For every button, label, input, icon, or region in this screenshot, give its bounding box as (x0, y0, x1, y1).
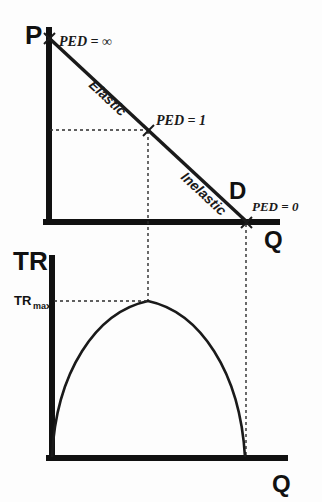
ped-zero-label: PED = 0 (252, 199, 299, 214)
ped-infinite-label: PED = ∞ (59, 34, 112, 49)
elastic-segment-label: Elastic (86, 76, 130, 119)
ped-unity-label: PED = 1 (156, 113, 206, 128)
price-axis-label: P (25, 20, 42, 50)
inelastic-segment-label: Inelastic (178, 168, 230, 218)
trmax-label: TR (14, 293, 32, 308)
marker-ped-unity (143, 125, 154, 136)
demand-curve-label: D (229, 177, 246, 204)
economics-diagram: P Q D PED = ∞ PED = 1 PED = 0 Elastic In… (0, 0, 322, 502)
trmax-subscript: max (33, 301, 51, 311)
top-chart-group: P Q D PED = ∞ PED = 1 PED = 0 Elastic In… (25, 20, 299, 458)
total-revenue-curve (52, 301, 245, 457)
bottom-chart-group: TR Q TR max (13, 246, 291, 497)
total-revenue-axis-label: TR (13, 246, 48, 276)
quantity-axis-label-bottom: Q (272, 470, 291, 497)
quantity-axis-label-top: Q (264, 226, 283, 253)
diagram-canvas: P Q D PED = ∞ PED = 1 PED = 0 Elastic In… (0, 0, 322, 502)
